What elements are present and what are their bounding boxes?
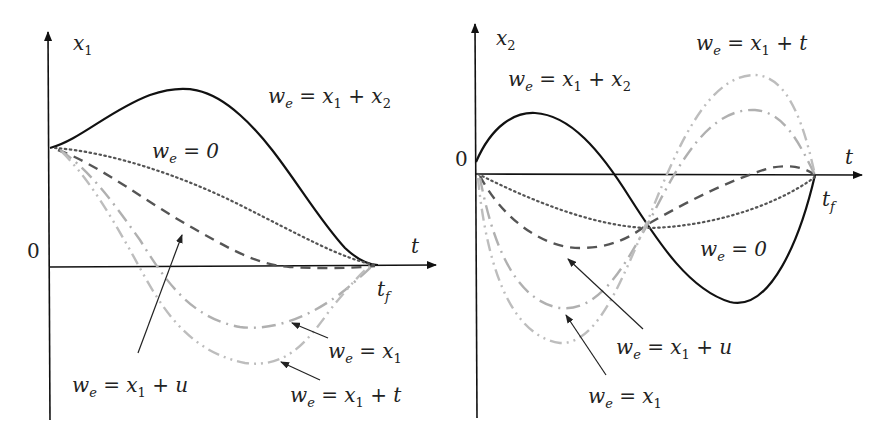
left-label-we-0: we = 0 — [152, 139, 219, 166]
right-label-we-x1: we = x1 — [588, 384, 662, 411]
left-t-label: t — [411, 234, 420, 258]
left-label-we-x1-u: we = x1 + u — [72, 373, 188, 400]
left-pointer-we-x1-u — [138, 235, 182, 353]
right-label-we-x1-u: we = x1 + u — [616, 335, 732, 362]
right-x-axis — [476, 174, 862, 175]
right-panel-x2: x2 t 0 tf we = x1 + x2 we = x1 + t we = … — [455, 24, 862, 418]
right-curve-we-x1 — [480, 110, 815, 308]
left-origin-label: 0 — [27, 239, 40, 263]
right-pointer-we-x1 — [566, 315, 606, 375]
right-curve-we-x1-t — [478, 75, 815, 343]
right-t-label: t — [845, 145, 854, 169]
right-pointer-we-x1-u — [568, 259, 643, 329]
left-label-we-x1-x2: we = x1 + x2 — [268, 84, 391, 111]
left-label-we-x1: we = x1 — [328, 339, 402, 366]
left-curve-we-x1-t — [62, 152, 370, 364]
left-pointer-we-x1-t — [281, 362, 320, 380]
right-tf-label: tf — [822, 187, 837, 214]
right-y-axis — [475, 24, 477, 418]
left-tf-label: tf — [377, 277, 392, 304]
right-curve-we-0 — [478, 174, 815, 228]
right-label-we-x1-x2: we = x1 + x2 — [508, 67, 631, 94]
left-y-axis — [48, 32, 50, 420]
right-label-we-x1-t: we = x1 + t — [696, 31, 808, 58]
right-curve-we-x1-u — [480, 166, 815, 248]
left-y-label: x1 — [73, 31, 93, 58]
left-panel-x1: x1 t 0 tf we = x1 + x2 we = 0 we = x1 + … — [27, 31, 436, 420]
right-curve-we-x1-x2 — [476, 113, 815, 303]
left-label-we-x1-t: we = x1 + t — [290, 383, 402, 410]
right-origin-label: 0 — [455, 147, 468, 171]
right-y-label: x2 — [496, 26, 516, 53]
left-pointer-we-x1 — [292, 323, 328, 338]
right-label-we-0: we = 0 — [700, 237, 767, 264]
state-trajectory-figure: x1 t 0 tf we = x1 + x2 we = 0 we = x1 + … — [0, 0, 894, 443]
left-curve-we-x1 — [60, 150, 372, 328]
left-x-axis — [50, 265, 436, 267]
